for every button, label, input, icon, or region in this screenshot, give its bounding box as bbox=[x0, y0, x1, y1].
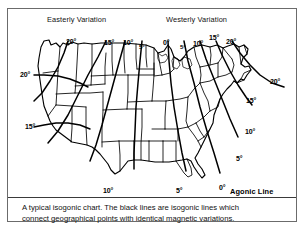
isogonic-label-20e-left: 20° bbox=[20, 71, 30, 78]
isogonic-line-15w bbox=[216, 41, 252, 105]
isogonic-label-10w-right: 10° bbox=[245, 128, 255, 135]
isogonic-label-20w-top: 20° bbox=[226, 38, 236, 45]
isogonic-line-0-agonic bbox=[168, 41, 186, 171]
isogonic-label-20e-top: 20° bbox=[66, 38, 76, 45]
caption-divider bbox=[8, 197, 296, 198]
caption-line-2: connect geographical points with identic… bbox=[22, 214, 284, 225]
isogonic-label-20w-right: 20° bbox=[270, 78, 280, 85]
isogonic-label-0-top: 0° bbox=[163, 39, 170, 46]
isogonic-label-0-bottom: 0° bbox=[219, 184, 226, 191]
isogonic-chart-figure: Easterly Variation Westerly Variation bbox=[7, 8, 297, 222]
isogonic-label-10e-top: 10° bbox=[123, 39, 133, 46]
isogonic-label-10e-bottom: 10° bbox=[103, 187, 113, 194]
isogonic-label-15e-top: 15° bbox=[104, 39, 114, 46]
agonic-line-annotation: Agonic Line bbox=[230, 187, 273, 196]
isogonic-label-15w-top: 15° bbox=[209, 34, 219, 41]
isogonic-line-10w bbox=[200, 41, 238, 137]
isogonic-label-5w-top: 5° bbox=[180, 43, 186, 50]
figure-caption: A typical isogonic chart. The black line… bbox=[22, 203, 284, 224]
isogonic-label-5e-bottom: 5° bbox=[176, 187, 183, 194]
isogonic-label-15w-right: 15° bbox=[246, 97, 256, 104]
caption-line-1: A typical isogonic chart. The black line… bbox=[22, 203, 284, 214]
isogonic-line-20e-left bbox=[34, 75, 88, 87]
state-boundaries bbox=[38, 40, 251, 178]
isogonic-label-10w-top: 10° bbox=[193, 40, 203, 47]
isogonic-label-5e-top: 5° bbox=[139, 43, 145, 50]
isogonic-label-15e-left: 15° bbox=[25, 123, 35, 130]
isogonic-line-5w bbox=[184, 41, 220, 173]
isogonic-label-5w-right: 5° bbox=[236, 155, 243, 162]
isogonic-line-10e bbox=[90, 41, 125, 161]
